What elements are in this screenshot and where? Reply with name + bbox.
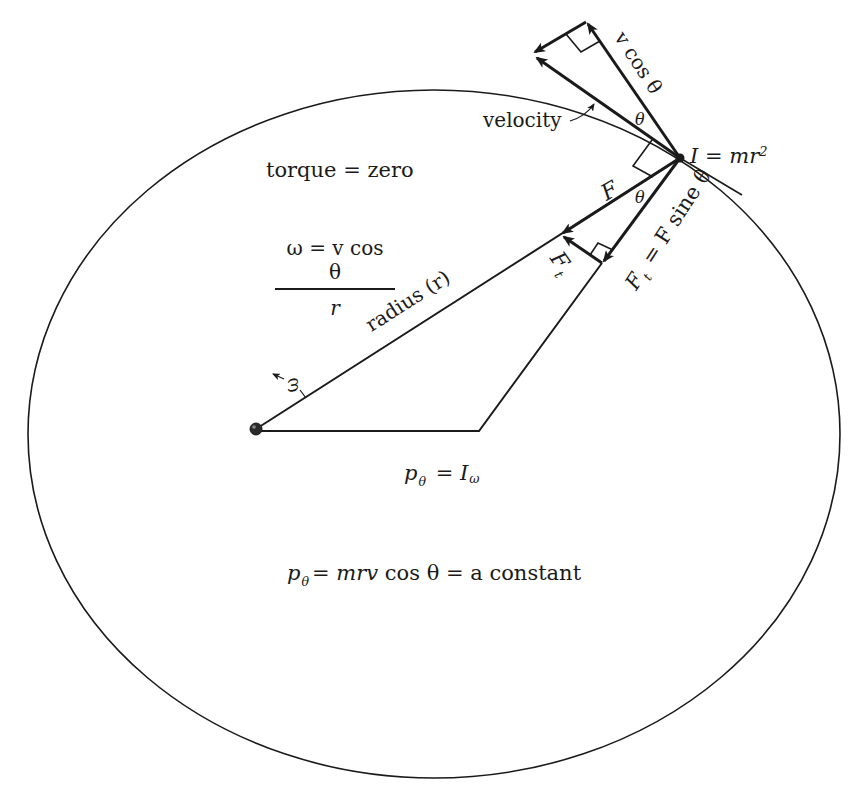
- angular-momentum-constant-label: pθ= mrv cos θ = a constant: [287, 563, 581, 584]
- pc-subscript: θ: [301, 574, 309, 589]
- omega-symbol: ω: [283, 378, 301, 393]
- pc-main: p: [287, 561, 300, 585]
- pc-rest-italic: = mrv: [312, 561, 378, 585]
- velocity-leader: [570, 104, 594, 121]
- p-theta-main: p: [404, 461, 417, 485]
- theta-mid-label: θ: [635, 190, 645, 206]
- diagram-graphics: [0, 0, 862, 802]
- angular-momentum-label: pθ = Iω: [404, 463, 483, 484]
- moi-eq: =: [698, 144, 729, 168]
- velocity-perpendicular-component: [535, 22, 586, 52]
- right-angle-marker-mass: [633, 140, 653, 177]
- p-theta-subscript: θ: [418, 474, 426, 489]
- diagram-canvas: torque = zero ω = v cos θ r radius (r) ω…: [0, 0, 862, 802]
- moi-rhs: mr: [729, 144, 759, 168]
- pivot-highlight: [252, 425, 256, 429]
- p-theta-rest: = I: [429, 461, 468, 485]
- angular-velocity-numerator: ω = v cos θ: [275, 236, 395, 290]
- theta-top-label: θ: [635, 112, 645, 128]
- moi-exponent: 2: [759, 144, 767, 159]
- torque-label: torque = zero: [266, 160, 414, 181]
- p-theta-omega-subscript: ω: [469, 471, 479, 486]
- velocity-label: velocity: [483, 110, 562, 130]
- pivot-point: [250, 423, 262, 435]
- point-mass: [676, 154, 685, 163]
- moment-of-inertia-label: I = mr2: [690, 146, 767, 167]
- pc-rest: cos θ = a constant: [378, 561, 581, 585]
- orbit-ellipse: [28, 90, 840, 778]
